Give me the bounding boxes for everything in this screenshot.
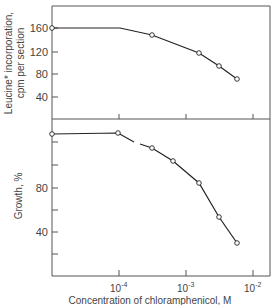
x-ticks (119, 270, 253, 276)
x-tick-labels: 10-4 10-3 10-2 (110, 281, 261, 294)
svg-text:80: 80 (36, 68, 48, 80)
bottom-y-axis-label: Growth, % (13, 173, 24, 220)
data-point (50, 132, 55, 137)
svg-text:10-4: 10-4 (110, 281, 127, 294)
svg-text:10-3: 10-3 (177, 281, 194, 294)
top-y-tick-labels: 160 120 80 40 (30, 22, 48, 103)
data-point (217, 64, 222, 69)
svg-text:cpm per section: cpm per section (15, 28, 26, 99)
svg-text:40: 40 (36, 91, 48, 103)
data-point (50, 26, 55, 31)
data-point (235, 77, 240, 82)
svg-text:120: 120 (30, 46, 48, 58)
data-point (197, 51, 202, 56)
bottom-series-growth (50, 131, 240, 246)
svg-text:Leucine* incorporation,: Leucine* incorporation, (3, 12, 14, 114)
data-point (235, 241, 240, 246)
svg-text:80: 80 (36, 182, 48, 194)
x-axis-label: Concentration of chloramphenicol, M (69, 295, 232, 305)
data-point (217, 215, 222, 220)
data-point (150, 33, 155, 38)
data-point (150, 146, 155, 151)
top-y-ticks (52, 28, 58, 97)
svg-text:10-2: 10-2 (244, 281, 261, 294)
top-y-axis-label: Leucine* incorporation, cpm per section (3, 12, 26, 114)
data-point (116, 131, 121, 136)
data-point (197, 181, 202, 186)
data-point (171, 159, 176, 164)
top-series-leucine (50, 26, 240, 82)
top-x-ticks (119, 114, 253, 119)
svg-text:40: 40 (36, 226, 48, 238)
bottom-y-ticks (52, 142, 58, 254)
plot-frame (52, 6, 270, 276)
bottom-y-tick-labels: 80 40 (36, 182, 48, 238)
svg-text:Growth, %: Growth, % (13, 173, 24, 220)
chart-canvas: 160 120 80 40 Leucine* incorporation, cp… (0, 0, 274, 305)
svg-text:160: 160 (30, 22, 48, 34)
